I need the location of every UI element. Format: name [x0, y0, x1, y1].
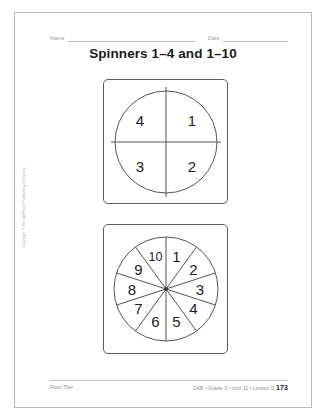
spinner-1-10-graphic: 12345678910: [108, 231, 224, 347]
spinner-1-10-hub: [164, 287, 168, 291]
spinner-1-4-sector-4: 4: [135, 111, 143, 128]
spinner-1-10-box: 12345678910: [103, 224, 228, 354]
spinner-1-4-box: 1 2 3 4: [103, 79, 228, 204]
footer-divider: [50, 380, 288, 381]
page-title: Spinners 1–4 and 1–10: [0, 46, 326, 61]
spinner-1-4-sector-3: 3: [135, 157, 143, 174]
footer-reference: DAB • Grade 3 • Unit 11 • Lesson 5173: [193, 384, 288, 391]
date-write-line[interactable]: [223, 34, 288, 42]
page-number: 173: [276, 384, 288, 391]
footer-reference-text: DAB • Grade 3 • Unit 11 • Lesson 5: [193, 385, 274, 391]
footer-lesson-name: Floor Tiler: [50, 384, 73, 390]
spinner-1-10-sector-6: 6: [151, 313, 159, 330]
spinner-1-10-sector-10: 10: [148, 250, 162, 264]
spinner-1-10-sector-3: 3: [195, 281, 203, 298]
spinner-1-4-graphic: 1 2 3 4: [110, 86, 222, 198]
date-label: Date: [208, 35, 220, 42]
spinner-1-10-sector-2: 2: [189, 261, 197, 278]
spinner-1-10-sector-4: 4: [189, 300, 197, 317]
name-label: Name: [50, 35, 65, 42]
worksheet-page: Name Date Spinners 1–4 and 1–10 1 2 3 4: [0, 0, 326, 420]
spinner-1-10-sector-9: 9: [134, 261, 142, 278]
spinner-1-10-sector-5: 5: [172, 313, 180, 330]
header-fields: Name Date: [50, 28, 288, 42]
spinner-1-10-sector-1: 1: [172, 248, 180, 265]
copyright-notice: Copyright © Kendall/Hunt Publishing Comp…: [22, 138, 26, 248]
spinner-1-10-sector-7: 7: [134, 300, 142, 317]
name-field[interactable]: Name: [50, 28, 195, 42]
name-write-line[interactable]: [68, 34, 195, 42]
spinner-1-10-sector-8: 8: [127, 281, 135, 298]
spinner-1-4-sector-1: 1: [187, 111, 195, 128]
spinner-1-4-sector-2: 2: [187, 157, 195, 174]
date-field[interactable]: Date: [208, 28, 288, 42]
